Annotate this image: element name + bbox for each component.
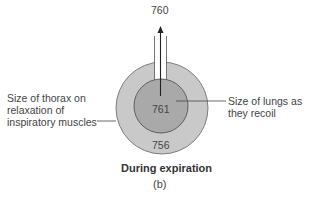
intrapulmonary-pressure-value: 761 — [152, 103, 170, 115]
intrapleural-pressure-value: 756 — [152, 139, 170, 151]
panel-label: (b) — [153, 178, 166, 190]
atmospheric-pressure-value: 760 — [151, 4, 169, 16]
figure-caption: During expiration — [121, 162, 212, 174]
thorax-label: Size of thorax on relaxation of inspirat… — [7, 92, 97, 128]
lungs-label: Size of lungs as they recoil — [228, 95, 302, 119]
airflow-arrow-head-icon — [158, 26, 164, 33]
